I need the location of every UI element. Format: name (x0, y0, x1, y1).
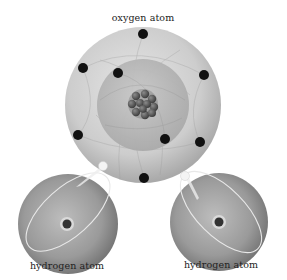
electron (195, 137, 205, 147)
oxygen-atom-label: oxygen atom (112, 12, 175, 23)
hydrogen-right-nucleus (215, 218, 224, 227)
water-molecule-diagram: oxygen atom hydrogen atom hydrogen atom (0, 0, 287, 280)
electron (113, 68, 123, 78)
electron (160, 134, 170, 144)
electron (78, 63, 88, 73)
oxygen-atom (65, 27, 221, 183)
hydrogen-left-label: hydrogen atom (30, 260, 104, 271)
electron (139, 173, 149, 183)
diagram-canvas (0, 0, 287, 280)
hydrogen-left-electron (99, 162, 108, 171)
hydrogen-atom-left (13, 159, 122, 274)
electron (73, 130, 83, 140)
hydrogen-right-label: hydrogen atom (184, 259, 258, 270)
hydrogen-right-electron (181, 172, 190, 181)
electron (138, 29, 148, 39)
hydrogen-left-nucleus (63, 220, 72, 229)
electron (199, 70, 209, 80)
hydrogen-atom-right (167, 158, 274, 271)
